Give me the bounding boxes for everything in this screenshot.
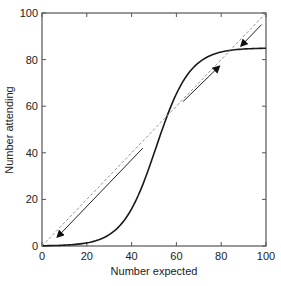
- arrow-annotations: [58, 25, 262, 237]
- y-tick-label: 0: [32, 240, 38, 252]
- y-tick-label: 20: [26, 193, 38, 205]
- x-axis-label: Number expected: [111, 265, 198, 277]
- x-tick-label: 60: [170, 250, 182, 262]
- attendance-curve: [42, 48, 266, 246]
- x-tick-label: 40: [125, 250, 137, 262]
- y-tick-label: 60: [26, 100, 38, 112]
- series-layer: [42, 13, 266, 246]
- y-tick-label: 40: [26, 147, 38, 159]
- y-axis-label: Number attending: [3, 86, 15, 173]
- chart: 020406080100020406080100 Number expected…: [0, 0, 281, 286]
- diagonal-y-equals-x: [42, 13, 266, 246]
- x-tick-label: 0: [39, 250, 45, 262]
- x-tick-label: 80: [215, 250, 227, 262]
- x-tick-label: 20: [81, 250, 93, 262]
- y-tick-label: 100: [20, 7, 38, 19]
- x-tick-label: 100: [257, 250, 275, 262]
- y-tick-label: 80: [26, 54, 38, 66]
- axis-ticks: 020406080100020406080100: [20, 7, 276, 262]
- arrow-up-right: [183, 67, 219, 102]
- arrow-down-left: [58, 148, 143, 237]
